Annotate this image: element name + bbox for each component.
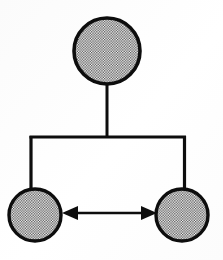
node-child-left[interactable]: [9, 189, 61, 241]
node-child-right[interactable]: [156, 189, 208, 241]
diagram-canvas: [0, 0, 223, 260]
node-diagram-svg: [0, 0, 223, 260]
node-parent[interactable]: [74, 18, 140, 84]
